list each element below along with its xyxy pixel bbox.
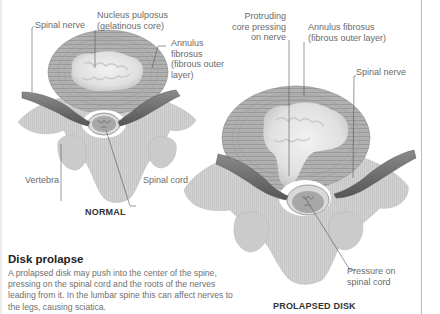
label-annulus-fibrosus-prolapsed: Annulus fibrosus (fibrous outer layer): [308, 22, 386, 43]
label-vertebra: Vertebra: [25, 175, 59, 186]
label-protruding-core: Protruding core pressing on nerve: [230, 11, 286, 43]
label-annulus-fibrosus-normal: Annulus fibrosus (fibrous outer layer): [171, 38, 224, 80]
caption-normal: NORMAL: [85, 207, 126, 217]
label-spinal-cord: Spinal cord: [143, 175, 188, 186]
label-spinal-nerve-prolapsed: Spinal nerve: [356, 67, 406, 78]
label-pressure-on-cord: Pressure on spinal cord: [347, 266, 396, 287]
label-spinal-nerve-normal: Spinal nerve: [35, 20, 85, 31]
prolapsed-vertebra: [184, 86, 416, 284]
label-nucleus-pulposus: Nucleus pulposus (gelatinous core): [97, 10, 168, 31]
section-heading: Disk prolapse: [8, 253, 83, 265]
section-body: A prolapsed disk may push into the cente…: [8, 268, 233, 313]
caption-prolapsed: PROLAPSED DISK: [273, 301, 356, 311]
